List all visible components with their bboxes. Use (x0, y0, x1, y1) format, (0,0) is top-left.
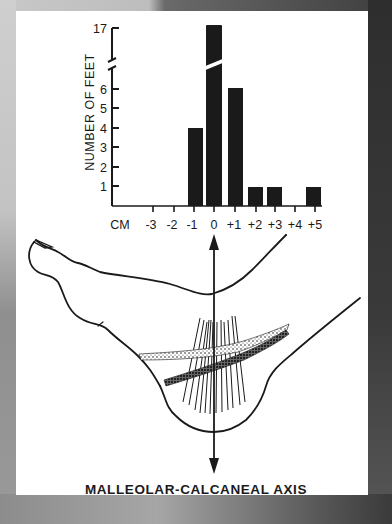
x-tick-plus3: +3 (268, 218, 282, 232)
bar-0 (206, 25, 222, 206)
bars (188, 25, 321, 206)
foot-illustration (29, 235, 360, 432)
x-tick-0: 0 (211, 218, 218, 232)
x-tick-minus3: -3 (145, 218, 156, 232)
arrow-up-head-icon (209, 234, 219, 250)
x-tick-plus1: +1 (227, 218, 241, 232)
figure-canvas: NUMBER OF FEET 17 6 5 4 3 2 1 (0, 0, 392, 524)
y-tick-1: 1 (100, 180, 107, 194)
y-tick-6: 6 (100, 83, 107, 97)
x-tick-plus5: +5 (308, 218, 322, 232)
x-tick-minus1: -1 (186, 218, 197, 232)
x-tick-labels: CM -3 -2 -1 0 +1 +2 +3 +4 +5 (110, 218, 322, 232)
x-axis-unit: CM (110, 218, 129, 232)
y-tick-3: 3 (100, 141, 107, 155)
bar-plus1 (228, 88, 243, 206)
y-tick-4: 4 (100, 122, 107, 136)
bar-minus1 (188, 128, 203, 206)
bar-plus2 (248, 187, 263, 206)
y-tick-2: 2 (100, 161, 107, 175)
y-axis-title: NUMBER OF FEET (83, 53, 97, 170)
bar-plus5 (306, 187, 321, 206)
x-tick-minus2: -2 (166, 218, 177, 232)
y-tick-5: 5 (100, 102, 107, 116)
x-tick-plus4: +4 (288, 218, 302, 232)
figure-caption: MALLEOLAR-CALCANEAL AXIS (0, 482, 392, 497)
bar-plus3 (267, 187, 282, 206)
x-axis (112, 206, 322, 212)
x-tick-plus2: +2 (248, 218, 262, 232)
y-axis (108, 28, 119, 206)
y-tick-17: 17 (93, 22, 107, 36)
arrow-down-head-icon (209, 458, 219, 474)
